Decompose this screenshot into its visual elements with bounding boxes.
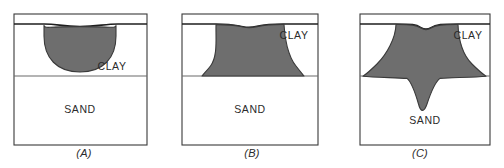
panel-a: CLAY SAND (A) xyxy=(0,0,168,168)
panel-b-caption: (B) xyxy=(168,147,336,159)
panel-b-sand-label: SAND xyxy=(234,103,266,115)
panel-b-clay-label: CLAY xyxy=(279,29,308,41)
panel-c-sand-label: SAND xyxy=(409,114,441,126)
panel-a-drawing: CLAY SAND xyxy=(0,0,168,168)
panel-c: CLAY SAND (C) xyxy=(336,0,504,168)
panel-c-drawing: CLAY SAND xyxy=(336,0,504,168)
panel-a-caption: (A) xyxy=(0,147,168,159)
panel-a-sand-label: SAND xyxy=(64,103,96,115)
panel-a-clay-label: CLAY xyxy=(97,60,126,72)
panel-c-clay-label: CLAY xyxy=(453,29,482,41)
panel-b-drawing: CLAY SAND xyxy=(168,0,336,168)
figure-container: CLAY SAND (A) CLAY SAND (B) xyxy=(0,0,504,168)
panel-c-caption: (C) xyxy=(336,147,504,159)
panel-b: CLAY SAND (B) xyxy=(168,0,336,168)
